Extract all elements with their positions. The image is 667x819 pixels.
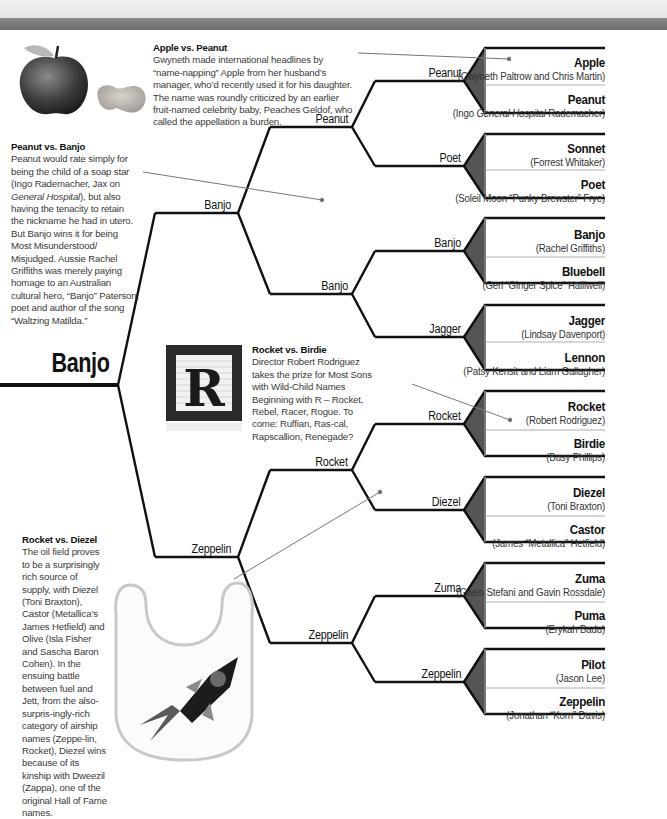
rocket-bib-icon xyxy=(110,565,260,765)
entry-rocket: Rocket(Robert Rodriguez) xyxy=(415,400,605,427)
champion-label: Banjo xyxy=(52,348,110,379)
entry-puma: Puma(Erykah Badu) xyxy=(415,609,605,636)
svg-text:R: R xyxy=(183,359,225,418)
round2-label-4: Zeppelin xyxy=(308,628,348,642)
blurb-italic: General Hospital xyxy=(11,191,80,202)
rocket-bib-image xyxy=(110,565,260,765)
round3-label-top: Banjo xyxy=(204,198,231,212)
entry-apple: Apple(Gwyneth Paltrow and Chris Martin) xyxy=(415,56,605,83)
round2-label-2: Banjo xyxy=(321,279,348,293)
blurb-title: Rocket vs. Diezel xyxy=(22,534,108,546)
entry-bluebell: Bluebell(Geri “Ginger Spice” Halliwell) xyxy=(415,265,605,292)
entry-castor: Castor(James “Metallica” Hetfield) xyxy=(415,523,605,550)
entry-zuma: Zuma(Gwen Stefani and Gavin Rossdale) xyxy=(415,572,605,599)
entry-banjo: Banjo(Rachel Griffiths) xyxy=(415,228,605,255)
blurb-rocket-diezel: Rocket vs. Diezel The oil field proves t… xyxy=(22,534,108,819)
blurb-text: Peanut would rate simply for being the c… xyxy=(11,153,129,189)
entry-poet: Poet(Soleil Moon “Punky Brewster” Frye) xyxy=(415,178,605,205)
round2-label-3: Rocket xyxy=(316,455,348,469)
entry-peanut: Peanut(Ingo General Hospital Rademacher) xyxy=(415,93,605,120)
entry-zeppelin: Zeppelin(Jonathan “Korn” Davis) xyxy=(415,695,605,722)
round3-label-bottom: Zeppelin xyxy=(191,542,231,556)
blurb-title: Apple vs. Peanut xyxy=(153,42,353,54)
entry-sonnet: Sonnet(Forrest Whitaker) xyxy=(415,142,605,169)
round2-label-1: Peanut xyxy=(315,112,348,126)
entry-lennon: Lennon(Patsy Kensit and Liam Gallagher) xyxy=(415,351,605,378)
blurb-title: Rocket vs. Birdie xyxy=(252,344,372,356)
blurb-peanut-banjo: Peanut vs. Banjo Peanut would rate simpl… xyxy=(11,141,139,327)
letter-block-image: R xyxy=(164,343,244,433)
apple-peanut-image xyxy=(12,38,152,118)
apple-icon xyxy=(12,38,152,118)
blurb-title: Peanut vs. Banjo xyxy=(11,141,139,153)
blurb-text: The oil field proves to be a surprisingl… xyxy=(22,546,107,818)
entry-jagger: Jagger(Lindsay Davenport) xyxy=(415,314,605,341)
blurb-rocket-birdie: Rocket vs. Birdie Director Robert Rodrig… xyxy=(252,344,372,443)
letter-block-icon: R xyxy=(164,343,244,433)
entry-pilot: Pilot(Jason Lee) xyxy=(415,658,605,685)
blurb-text: Director Robert Rodriguez takes the priz… xyxy=(252,356,372,441)
entry-birdie: Birdie(Busy Phillips) xyxy=(415,437,605,464)
blurb-text: ), but also having the tenacity to retai… xyxy=(11,191,139,326)
entry-diezel: Diezel(Toni Braxton) xyxy=(415,486,605,513)
